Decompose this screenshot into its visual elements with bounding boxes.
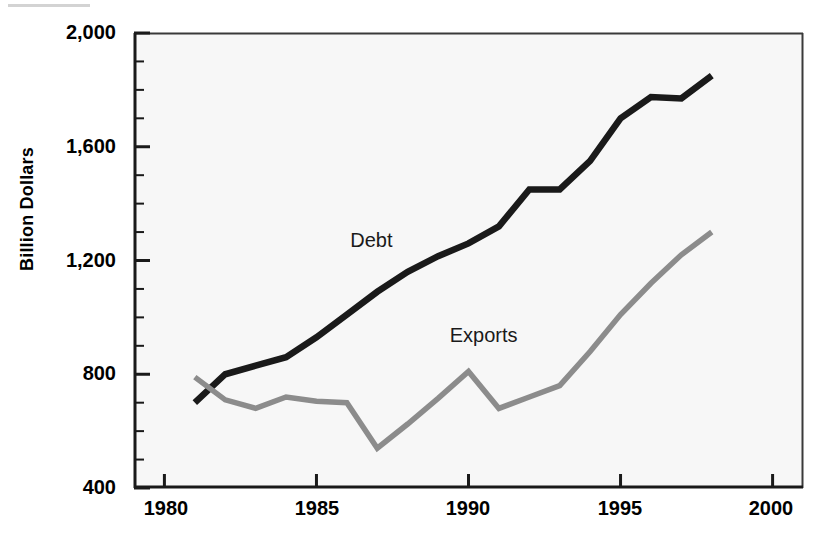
chart-canvas [0,0,827,553]
plot-background [134,33,803,488]
series-label-debt: Debt [350,229,392,252]
x-tick-label-1990: 1990 [423,497,513,520]
x-tick-label-1980: 1980 [121,497,211,520]
series-label-exports: Exports [450,324,518,347]
y-tick-label-800: 800 [6,362,116,385]
y-tick-label-1600: 1,600 [6,135,116,158]
y-tick-label-2000: 2,000 [6,21,116,44]
chart-figure: Billion Dollars 2,000 1,600 1,200 800 40… [0,0,827,553]
y-tick-label-400: 400 [6,476,116,499]
x-tick-label-1995: 1995 [575,497,665,520]
x-tick-label-2000: 2000 [726,497,816,520]
y-tick-label-1200: 1,200 [6,249,116,272]
x-tick-label-1985: 1985 [272,497,362,520]
